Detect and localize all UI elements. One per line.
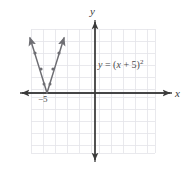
curve-point-marker: [43, 83, 46, 86]
curve-point-marker: [33, 51, 36, 54]
curve-point-marker: [49, 83, 52, 86]
x-tick-label-minus-5: −5: [38, 95, 48, 104]
equation-operator: = (: [102, 59, 116, 70]
curve-point-marker: [57, 51, 60, 54]
x-axis-label: x: [175, 88, 180, 99]
parabola-graph-figure: y x −5 y = (x + 5)2: [0, 0, 190, 172]
grid-lines: [31, 29, 155, 153]
y-axis-label: y: [90, 6, 95, 17]
parabola-curve: [30, 38, 64, 93]
curve-point-markers: [33, 51, 60, 85]
curve-point-marker: [51, 67, 54, 70]
graph-canvas: [0, 0, 190, 172]
equation-exponent: 2: [140, 58, 144, 66]
curve-point-marker: [39, 67, 42, 70]
equation-annotation: y = (x + 5)2: [98, 59, 143, 70]
equation-rest: + 5): [121, 59, 140, 70]
